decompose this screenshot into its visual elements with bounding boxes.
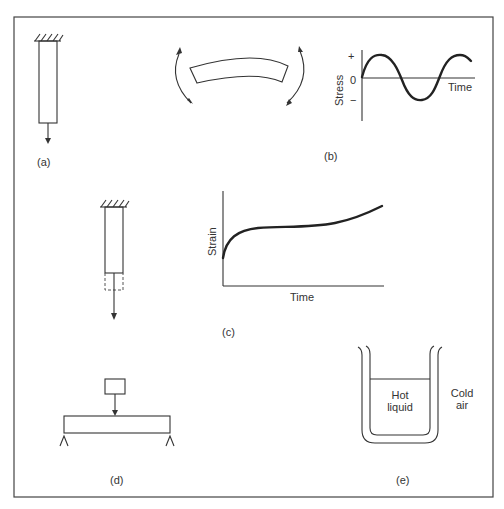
creep-curve <box>223 206 382 258</box>
panel-b-cyclic-bending: + 0 − Stress Time (b) <box>175 46 475 162</box>
panel-e-thermal-vessel: Hot liquid Cold air (e) <box>358 346 473 486</box>
right-support-icon <box>166 436 174 446</box>
arrow-up-icon <box>298 46 303 52</box>
time-axis-label: Time <box>290 291 314 303</box>
hot-text-1: Hot <box>391 389 408 401</box>
panel-a-tension-bar: (a) <box>34 34 63 168</box>
arrow-down-icon <box>45 138 51 144</box>
time-axis-label: Time <box>448 81 472 93</box>
arrow-down-icon <box>111 313 117 320</box>
figure-frame <box>14 17 493 497</box>
hatch-icon <box>35 34 63 41</box>
tick-plus: + <box>348 50 354 62</box>
cold-text-1: Cold <box>451 387 474 399</box>
panel-b-label: (b) <box>324 150 337 162</box>
strain-axis-label: Strain <box>206 227 218 256</box>
hatch-icon <box>101 200 129 207</box>
rotation-arrow-right <box>287 51 304 103</box>
curved-beam <box>190 58 288 83</box>
bar-specimen <box>39 41 57 123</box>
arrow-down-icon <box>112 410 118 416</box>
panel-c-creep: Strain Time (c) <box>100 191 384 338</box>
panel-e-label: (e) <box>396 474 409 486</box>
beam <box>64 416 170 433</box>
panel-d-label: (d) <box>110 474 123 486</box>
hot-text-2: liquid <box>387 401 413 413</box>
arrow-up-icon <box>176 47 182 55</box>
cold-text-2: air <box>456 399 469 411</box>
panel-d-loaded-beam: (d) <box>60 379 174 486</box>
stress-axis-label: Stress <box>333 74 345 106</box>
left-support-icon <box>60 436 68 446</box>
figure-canvas: (a) + 0 − Stress Time (b) <box>0 0 504 509</box>
tick-zero: 0 <box>350 74 356 86</box>
panel-c-label: (c) <box>222 326 235 338</box>
bar-specimen <box>105 207 123 273</box>
panel-a-label: (a) <box>37 156 50 168</box>
rotation-arrow-left <box>175 54 191 103</box>
weight-block <box>105 379 125 394</box>
tick-minus: − <box>350 94 356 106</box>
